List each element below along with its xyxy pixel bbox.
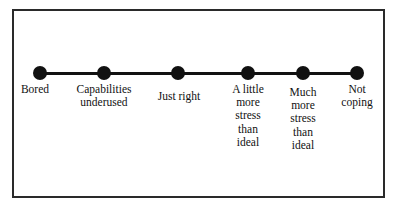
label-line: Much (290, 86, 317, 99)
label-line: A little (232, 83, 264, 96)
point-label-bored: Bored (21, 83, 49, 96)
label-line: Just right (158, 90, 201, 103)
point-label-a-little-more-stress: A little more stress than ideal (232, 83, 264, 149)
label-line: stress (290, 112, 317, 125)
point-label-capabilities-underused: Capabilities underused (77, 83, 132, 109)
label-line: Capabilities (77, 83, 132, 96)
label-line: than (290, 126, 317, 139)
point-marker-capabilities-underused (97, 66, 111, 80)
label-line: ideal (290, 139, 317, 152)
point-marker-much-more-stress (296, 66, 310, 80)
label-line: underused (77, 96, 132, 109)
diagram-frame (12, 9, 385, 198)
label-line: Not (341, 83, 372, 96)
label-line: Bored (21, 83, 49, 96)
point-marker-just-right (171, 66, 185, 80)
point-label-just-right: Just right (158, 90, 201, 103)
label-line: than (232, 123, 264, 136)
label-line: more (232, 96, 264, 109)
point-marker-not-coping (350, 66, 364, 80)
label-line: coping (341, 96, 372, 109)
point-label-much-more-stress: Much more stress than ideal (290, 86, 317, 152)
label-line: stress (232, 109, 264, 122)
point-marker-bored (33, 66, 47, 80)
label-line: ideal (232, 136, 264, 149)
point-marker-a-little-more-stress (241, 66, 255, 80)
point-label-not-coping: Not coping (341, 83, 372, 109)
label-line: more (290, 99, 317, 112)
